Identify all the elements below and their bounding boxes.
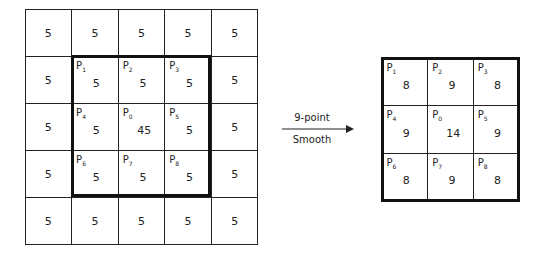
- cell: 5: [25, 150, 73, 198]
- output-border: [381, 57, 520, 202]
- cell: 5: [211, 197, 259, 245]
- cell: 5: [211, 150, 259, 198]
- cell: 5: [25, 197, 73, 245]
- cell: 5: [25, 56, 73, 104]
- cell-value: 5: [91, 214, 98, 227]
- cell-value: 5: [185, 26, 192, 39]
- cell-value: 5: [45, 73, 52, 86]
- cell-value: 5: [45, 26, 52, 39]
- cell: 5: [164, 197, 212, 245]
- cell: 5: [25, 103, 73, 151]
- cell-value: 5: [231, 167, 238, 180]
- cell-value: 5: [138, 26, 145, 39]
- cell-value: 5: [231, 120, 238, 133]
- cell-value: 5: [45, 214, 52, 227]
- cell-value: 5: [185, 214, 192, 227]
- cell: 5: [71, 9, 119, 57]
- cell-value: 5: [231, 214, 238, 227]
- cell: 5: [71, 197, 119, 245]
- cell-value: 5: [91, 26, 98, 39]
- cell-value: 5: [231, 26, 238, 39]
- arrow-bottom-label: Smooth: [282, 134, 342, 145]
- cell-value: 5: [231, 73, 238, 86]
- cell: 5: [25, 9, 73, 57]
- cell: 5: [118, 197, 166, 245]
- input-highlight-box: [71, 55, 211, 197]
- cell: 5: [211, 103, 259, 151]
- cell-value: 5: [45, 120, 52, 133]
- arrow-icon: [282, 124, 354, 134]
- cell-value: 5: [45, 167, 52, 180]
- cell: 5: [118, 9, 166, 57]
- arrow-top-label: 9-point: [282, 112, 342, 123]
- cell-value: 5: [138, 214, 145, 227]
- cell: 5: [164, 9, 212, 57]
- cell: 5: [211, 9, 259, 57]
- cell: 5: [211, 56, 259, 104]
